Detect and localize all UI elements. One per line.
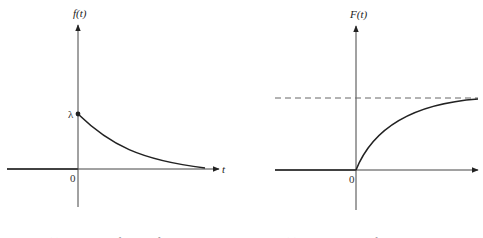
figure: f(t) t 0 λ (a) The density function f F(… bbox=[0, 0, 483, 238]
caption-b: (b) The distribution function F bbox=[285, 235, 419, 238]
origin-label-a: 0 bbox=[70, 172, 76, 184]
y-axis-label-a: f(t) bbox=[73, 7, 87, 20]
caption-a: (a) The density function f bbox=[48, 235, 161, 238]
distribution-curve bbox=[356, 99, 478, 170]
lambda-point bbox=[76, 112, 81, 117]
lambda-label: λ bbox=[68, 108, 74, 120]
panel-b-distribution: F(t) 0 (b) The distribution function F bbox=[275, 8, 478, 238]
panel-a-density: f(t) t 0 λ (a) The density function f bbox=[7, 7, 226, 238]
y-axis-label-b: F(t) bbox=[349, 8, 367, 21]
density-curve bbox=[78, 114, 205, 168]
x-axis-label-a: t bbox=[222, 163, 226, 175]
origin-label-b: 0 bbox=[349, 173, 355, 185]
